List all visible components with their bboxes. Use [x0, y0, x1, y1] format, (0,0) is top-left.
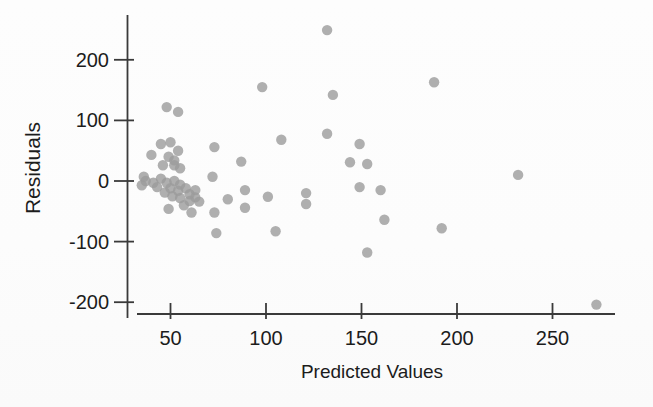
- data-point: [158, 160, 168, 170]
- y-tick-label: 100: [76, 109, 109, 131]
- data-point: [354, 139, 364, 149]
- data-point: [301, 199, 311, 209]
- data-point: [146, 150, 156, 160]
- data-point: [240, 185, 250, 195]
- data-point: [263, 192, 273, 202]
- data-point: [207, 172, 217, 182]
- data-point: [257, 82, 267, 92]
- data-point: [513, 170, 523, 180]
- data-point: [209, 207, 219, 217]
- data-point: [276, 135, 286, 145]
- data-point: [223, 194, 233, 204]
- y-tick-label: -200: [69, 291, 109, 313]
- data-point: [179, 200, 189, 210]
- data-point: [186, 207, 196, 217]
- x-tick-label: 50: [159, 327, 181, 349]
- data-point: [429, 77, 439, 87]
- data-point: [209, 142, 219, 152]
- x-tick-label: 250: [536, 327, 569, 349]
- data-point: [322, 129, 332, 139]
- x-tick-label: 150: [345, 327, 378, 349]
- data-point: [362, 247, 372, 257]
- x-axis-label: Predicted Values: [301, 361, 443, 382]
- data-point: [354, 182, 364, 192]
- data-point: [175, 163, 185, 173]
- data-point: [137, 180, 147, 190]
- data-point: [437, 223, 447, 233]
- y-tick-label: 0: [98, 170, 109, 192]
- data-point: [379, 215, 389, 225]
- data-point: [362, 159, 372, 169]
- y-tick-label: 200: [76, 49, 109, 71]
- data-point: [173, 146, 183, 156]
- x-tick-label: 100: [249, 327, 282, 349]
- data-point: [375, 185, 385, 195]
- data-point: [163, 204, 173, 214]
- data-point: [591, 299, 601, 309]
- data-point: [173, 107, 183, 117]
- data-point: [165, 137, 175, 147]
- data-point: [156, 139, 166, 149]
- data-point: [328, 90, 338, 100]
- data-point: [301, 188, 311, 198]
- data-point: [162, 102, 172, 112]
- y-axis-label: Residuals: [21, 122, 44, 214]
- data-point: [270, 226, 280, 236]
- data-point: [211, 228, 221, 238]
- plot-canvas: -200-100010020050100150200250Predicted V…: [0, 0, 653, 407]
- x-tick-label: 200: [440, 327, 473, 349]
- scatter-plot: -200-100010020050100150200250Predicted V…: [0, 0, 653, 407]
- data-point: [236, 156, 246, 166]
- data-point: [240, 203, 250, 213]
- data-point: [345, 157, 355, 167]
- data-point: [194, 196, 204, 206]
- data-point: [322, 25, 332, 35]
- y-tick-label: -100: [69, 231, 109, 253]
